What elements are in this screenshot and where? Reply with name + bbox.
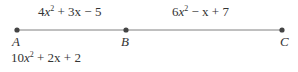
segment-ab-rest: + 3x − 5 <box>54 4 101 19</box>
point-a-label: A <box>12 34 20 50</box>
point-b-dot <box>123 27 128 32</box>
segment-ab-label: 4x2 + 3x − 5 <box>38 4 101 20</box>
point-c-label: C <box>280 34 289 50</box>
point-b-label: B <box>121 34 129 50</box>
point-a-dot <box>14 27 19 32</box>
segment-bc-label: 6x2 − x + 7 <box>172 4 229 20</box>
point-c-dot <box>279 27 284 32</box>
segment-bc-rest: − x + 7 <box>188 4 229 19</box>
